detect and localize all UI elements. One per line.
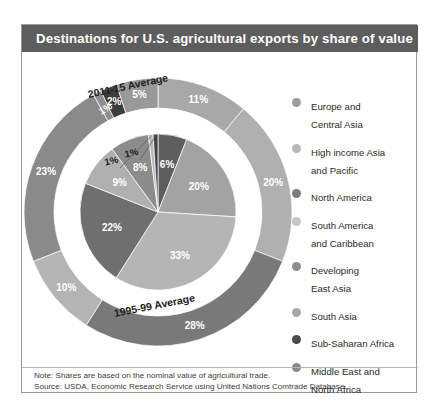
- legend-item-label: High income Asiaand Pacific: [311, 147, 385, 176]
- legend-swatch-icon: [292, 262, 301, 271]
- legend-item[interactable]: South Asia: [292, 306, 418, 324]
- legend-item[interactable]: Sub-Saharan Africa: [292, 333, 418, 351]
- inner-pie-slice-label: 33%: [170, 250, 190, 261]
- legend-item-label: North America: [311, 192, 372, 203]
- chart-page: Destinations for U.S. agricultural expor…: [0, 0, 437, 410]
- legend-item-label: South Asia: [311, 311, 357, 322]
- page-bleed-text: [8, 0, 168, 6]
- legend-item-label: South Americaand Caribbean: [311, 220, 374, 249]
- legend-item[interactable]: High income Asiaand Pacific: [292, 142, 418, 178]
- inner-pie-slice-label: 8%: [133, 162, 148, 173]
- nested-donut-chart: 11%20%28%10%23%1%2%5% 6%20%33%22%9%8%1%1…: [24, 60, 292, 360]
- outer-ring-slice-label: 23%: [36, 166, 56, 177]
- legend-item-label-line2: East Asia: [311, 283, 351, 294]
- outer-ring-slice-label: 20%: [263, 177, 283, 188]
- legend-item[interactable]: North America: [292, 187, 418, 205]
- legend-swatch-icon: [292, 308, 301, 317]
- chart-panel: Destinations for U.S. agricultural expor…: [21, 24, 417, 393]
- outer-ring-slice-label: 28%: [185, 320, 205, 331]
- legend-item-label-line2: Central Asia: [311, 119, 363, 130]
- page-title: Destinations for U.S. agricultural expor…: [36, 31, 413, 46]
- chart-plot-area: 11%20%28%10%23%1%2%5% 6%20%33%22%9%8%1%1…: [22, 52, 418, 367]
- outer-ring-slice-label: 10%: [56, 282, 76, 293]
- footnote-source: Source: USDA, Economic Research Service …: [34, 382, 418, 393]
- legend-item-label-line2: and Pacific: [311, 165, 358, 176]
- legend-swatch-icon: [292, 144, 301, 153]
- chart-title-bar: Destinations for U.S. agricultural expor…: [22, 25, 418, 52]
- legend-item[interactable]: Europe andCentral Asia: [292, 96, 418, 132]
- outer-ring-slice-label: 11%: [189, 94, 209, 105]
- chart-legend: Europe andCentral AsiaHigh income Asiaan…: [292, 96, 418, 406]
- chart-footnote: Note: Shares are based on the nominal va…: [22, 367, 418, 393]
- legend-item-label: Europe andCentral Asia: [311, 101, 363, 130]
- legend-item[interactable]: South Americaand Caribbean: [292, 215, 418, 251]
- legend-item-label: DevelopingEast Asia: [311, 265, 359, 294]
- inner-pie-slice-label: 20%: [189, 181, 209, 192]
- legend-swatch-icon: [292, 217, 301, 226]
- inner-pie-slice-label: 9%: [113, 177, 128, 188]
- legend-swatch-icon: [292, 189, 301, 198]
- legend-swatch-icon: [292, 335, 301, 344]
- legend-item-label-line2: and Caribbean: [311, 238, 374, 249]
- inner-pie-slice-label: 6%: [160, 159, 175, 170]
- inner-pie-slice-label: 22%: [102, 222, 122, 233]
- footnote-note: Note: Shares are based on the nominal va…: [34, 371, 418, 382]
- outer-ring-slice-label: 2%: [107, 96, 122, 107]
- legend-item[interactable]: DevelopingEast Asia: [292, 260, 418, 296]
- outer-ring-slice-label: 5%: [132, 89, 147, 100]
- donut-svg: 11%20%28%10%23%1%2%5% 6%20%33%22%9%8%1%1…: [24, 60, 292, 360]
- legend-item-label: Sub-Saharan Africa: [311, 338, 394, 349]
- legend-swatch-icon: [292, 98, 301, 107]
